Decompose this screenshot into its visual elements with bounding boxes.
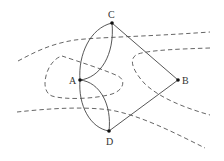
edge-a-d-inner: [80, 80, 109, 131]
label-c: C: [108, 9, 115, 20]
label-b: B: [182, 75, 189, 86]
label-d: D: [106, 136, 113, 147]
river-top-bank: [18, 32, 210, 61]
node-a: [78, 78, 82, 82]
island-loop: [45, 56, 123, 98]
edge-a-d-outer: [80, 80, 109, 131]
label-a: A: [69, 75, 77, 86]
edge-d-b: [109, 80, 178, 131]
node-d: [107, 129, 111, 133]
edge-c-b: [112, 23, 178, 80]
node-b: [176, 78, 180, 82]
konigsberg-graph-diagram: A B C D: [0, 0, 224, 161]
node-c: [110, 21, 114, 25]
